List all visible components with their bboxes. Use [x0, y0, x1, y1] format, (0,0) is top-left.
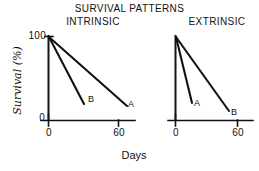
- series-layer: [49, 37, 229, 111]
- series-line-intrinsic-b: [49, 37, 84, 104]
- plot-lines: [0, 0, 259, 171]
- series-line-intrinsic-a: [49, 37, 127, 106]
- figure-canvas: SURVIVAL PATTERNS INTRINSIC EXTRINSIC Su…: [0, 0, 259, 171]
